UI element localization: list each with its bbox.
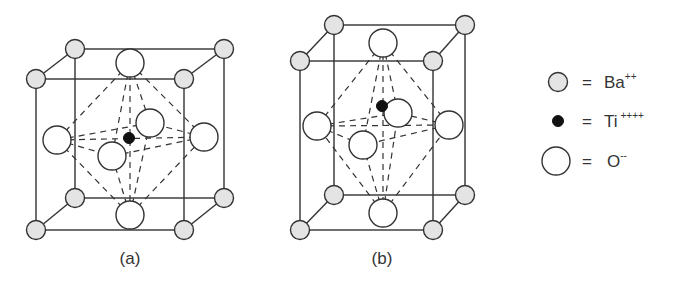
- oxygen-atom: [116, 49, 144, 77]
- barium-atom: [215, 189, 234, 208]
- barium-atom: [424, 221, 443, 240]
- oxygen-atom: [435, 111, 463, 139]
- oxygen-atom: [190, 123, 218, 151]
- oxygen-atom: [43, 126, 71, 154]
- legend-species-ti: Ti++++: [604, 110, 644, 131]
- barium-atom: [325, 186, 344, 205]
- oxygen-atom: [98, 142, 126, 170]
- oxygen-atom: [303, 112, 331, 140]
- legend-species-o: O--: [607, 150, 627, 171]
- legend-item-ba: = Ba++: [549, 71, 637, 92]
- oxygen-atom: [369, 199, 397, 227]
- oxygen-atom: [384, 99, 412, 127]
- legend: = Ba++ = Ti++++ = O--: [542, 71, 644, 175]
- barium-atom: [27, 221, 46, 240]
- legend-eq: =: [582, 73, 592, 92]
- barium-atom: [456, 16, 475, 35]
- perovskite-diagram: (a): [0, 0, 687, 289]
- unit-cell-b: (b): [291, 16, 475, 269]
- legend-species-ba: Ba++: [604, 71, 637, 92]
- barium-atom: [291, 221, 310, 240]
- oxygen-atom: [369, 29, 397, 57]
- white-circle-icon: [542, 147, 570, 175]
- legend-item-o: = O--: [542, 147, 627, 175]
- panel-label-b: (b): [372, 249, 393, 268]
- barium-atom: [325, 16, 344, 35]
- titanium-atom: [124, 133, 135, 144]
- oxygen-atom: [349, 131, 377, 159]
- legend-item-ti: = Ti++++: [553, 110, 645, 131]
- oxygen-atom: [116, 201, 144, 229]
- gray-circle-icon: [549, 73, 568, 92]
- barium-atom: [175, 70, 194, 89]
- barium-atom: [291, 52, 310, 71]
- barium-atom: [424, 52, 443, 71]
- barium-atom: [66, 40, 85, 59]
- legend-eq: =: [582, 152, 592, 171]
- barium-atom: [175, 221, 194, 240]
- barium-atom: [27, 70, 46, 89]
- barium-atom: [456, 186, 475, 205]
- barium-atom: [215, 40, 234, 59]
- barium-atom: [66, 189, 85, 208]
- oxygen-atom: [136, 109, 164, 137]
- unit-cell-a: (a): [27, 40, 234, 269]
- black-dot-icon: [553, 116, 564, 127]
- panel-label-a: (a): [120, 249, 141, 268]
- titanium-atom: [377, 101, 388, 112]
- legend-eq: =: [582, 112, 592, 131]
